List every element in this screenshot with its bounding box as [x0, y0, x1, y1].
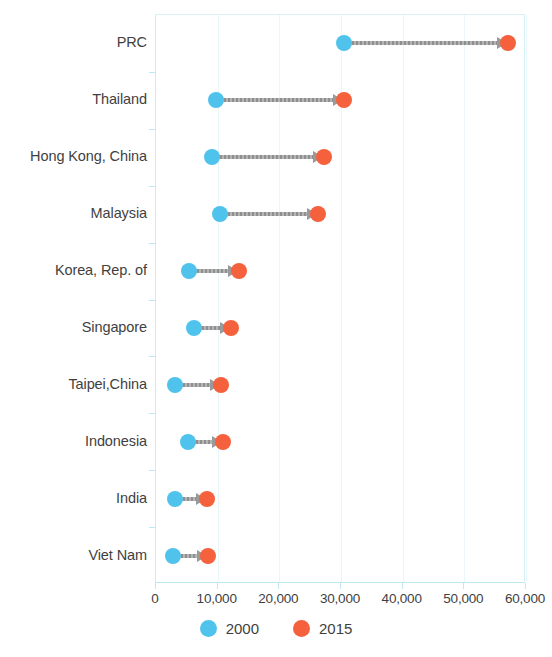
- data-point-2015: [215, 434, 231, 450]
- change-connector: [212, 155, 316, 159]
- x-axis-tick: [402, 583, 403, 589]
- data-point-2000: [165, 548, 181, 564]
- y-axis-label: Indonesia: [7, 433, 155, 449]
- legend-swatch-circle-icon: [293, 620, 310, 637]
- change-connector: [220, 212, 310, 216]
- x-axis-tick-group: [155, 583, 525, 589]
- x-axis-tick: [278, 583, 279, 589]
- x-axis-tick-label: 0: [151, 591, 158, 606]
- data-point-2000: [204, 149, 220, 165]
- gridline-40000: [403, 15, 404, 582]
- y-axis-tick: [149, 129, 156, 130]
- y-axis-tick: [149, 186, 156, 187]
- legend-label: 2000: [226, 620, 259, 637]
- data-point-2015: [310, 206, 326, 222]
- data-point-2000: [167, 377, 183, 393]
- y-axis-label: India: [7, 490, 155, 506]
- y-axis-label: Singapore: [7, 319, 155, 335]
- legend-item-2000[interactable]: 2000: [200, 620, 259, 637]
- gridline-50000: [464, 15, 465, 582]
- data-point-2015: [213, 377, 229, 393]
- data-point-2015: [500, 35, 516, 51]
- y-axis-tick: [149, 470, 156, 471]
- y-axis-tick: [149, 72, 156, 73]
- legend-swatch-circle-icon: [200, 620, 217, 637]
- y-axis-label-group: PRCThailandHong Kong, ChinaMalaysiaKorea…: [0, 14, 155, 583]
- y-axis-label: PRC: [7, 34, 155, 50]
- plot-area: [155, 14, 525, 583]
- x-axis-tick-label: 10,000: [197, 591, 237, 606]
- data-point-2015: [200, 548, 216, 564]
- chart-legend: 20002015: [0, 620, 552, 637]
- y-axis-label: Taipei,China: [7, 376, 155, 392]
- x-axis-tick: [525, 583, 526, 589]
- data-point-2000: [212, 206, 228, 222]
- y-axis-tick: [149, 356, 156, 357]
- y-axis-tick: [149, 300, 156, 301]
- y-axis-label: Malaysia: [7, 205, 155, 221]
- data-point-2000: [186, 320, 202, 336]
- x-axis-tick-label: 40,000: [382, 591, 422, 606]
- data-point-2015: [199, 491, 215, 507]
- legend-label: 2015: [319, 620, 352, 637]
- data-point-2015: [316, 149, 332, 165]
- change-connector: [216, 98, 336, 102]
- data-point-2000: [180, 434, 196, 450]
- x-axis-tick: [155, 583, 156, 589]
- x-axis-tick: [463, 583, 464, 589]
- x-axis-tick-label: 60,000: [505, 591, 545, 606]
- y-axis-label: Viet Nam: [7, 547, 155, 563]
- data-point-2000: [208, 92, 224, 108]
- y-axis-label: Korea, Rep. of: [7, 262, 155, 278]
- y-axis-tick: [149, 413, 156, 414]
- data-point-2015: [223, 320, 239, 336]
- data-point-2015: [336, 92, 352, 108]
- data-point-2000: [336, 35, 352, 51]
- y-axis-tick: [149, 527, 156, 528]
- x-axis-tick-label: 30,000: [320, 591, 360, 606]
- y-axis-label: Thailand: [7, 91, 155, 107]
- data-point-2015: [231, 263, 247, 279]
- y-axis-tick: [149, 243, 156, 244]
- x-axis-tick-label: 20,000: [258, 591, 298, 606]
- legend-item-2015[interactable]: 2015: [293, 620, 352, 637]
- data-point-2000: [181, 263, 197, 279]
- data-point-2000: [167, 491, 183, 507]
- x-axis-tick: [340, 583, 341, 589]
- change-connector: [344, 41, 499, 45]
- dumbbell-chart: PRCThailandHong Kong, ChinaMalaysiaKorea…: [0, 0, 552, 657]
- gridline-60000: [526, 15, 527, 582]
- x-axis-tick-label: 50,000: [443, 591, 483, 606]
- y-axis-label: Hong Kong, China: [7, 148, 155, 164]
- x-axis-tick: [217, 583, 218, 589]
